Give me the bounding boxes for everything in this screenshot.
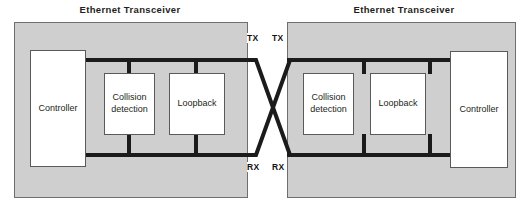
left-collision-detection-label-line1: Collision (112, 92, 146, 102)
left-rx-label: RX (247, 162, 259, 172)
left-loopback-label: Loopback (177, 98, 216, 110)
right-rx-label: RX (272, 162, 284, 172)
right-loopback-box: Loopback (370, 73, 426, 135)
left-loopback-tx-stub (194, 58, 198, 74)
right-controller-label: Controller (459, 104, 498, 116)
left-controller-box: Controller (30, 50, 86, 167)
left-loopback-rx-stub (194, 134, 198, 157)
left-transceiver-title: Ethernet Transceiver (57, 4, 203, 15)
left-collision-detection-label-line2: detection (111, 104, 148, 114)
left-tx-label: TX (247, 33, 258, 43)
right-transceiver-title: Ethernet Transceiver (331, 4, 477, 15)
right-collision-tx-stub (362, 58, 366, 74)
left-tx-bus-horizontal (85, 58, 248, 62)
right-loopback-label: Loopback (378, 98, 417, 110)
wire-right-tx-to-left-rx (248, 60, 298, 155)
right-collision-rx-stub (362, 134, 366, 157)
left-loopback-box: Loopback (169, 73, 225, 135)
right-collision-detection-label-line1: Collision (311, 92, 345, 102)
right-loopback-rx-stub (428, 134, 432, 157)
left-collision-detection-label: Collision detection (111, 92, 148, 116)
right-controller-box: Controller (450, 51, 508, 168)
right-collision-detection-label: Collision detection (310, 92, 347, 116)
right-loopback-tx-stub (428, 58, 432, 74)
left-collision-detection-box: Collision detection (104, 73, 155, 135)
right-collision-detection-box: Collision detection (303, 73, 354, 135)
crossover-wires (240, 30, 298, 175)
right-tx-label: TX (272, 33, 283, 43)
right-collision-detection-label-line2: detection (310, 104, 347, 114)
left-controller-label: Controller (38, 103, 77, 115)
left-rx-bus-horizontal (85, 153, 248, 157)
diagram-canvas: Ethernet Transceiver Controller Collisio… (0, 0, 531, 210)
left-collision-rx-stub (127, 134, 131, 157)
left-collision-tx-stub (127, 58, 131, 74)
